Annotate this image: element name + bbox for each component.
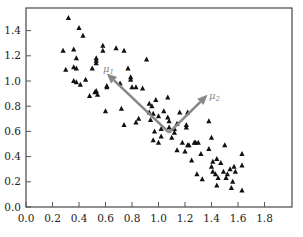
data-point (194, 171, 199, 176)
y-tick-label: 0.2 (4, 175, 21, 187)
data-point (66, 15, 71, 20)
data-point (169, 135, 174, 140)
data-point (121, 122, 126, 127)
data-point (230, 179, 235, 184)
y-tick-label: 1.4 (4, 24, 21, 36)
x-tick-label: 1.8 (256, 212, 273, 224)
data-point (165, 94, 170, 99)
data-point (180, 140, 185, 145)
data-point (189, 157, 194, 162)
data-point (159, 133, 164, 138)
data-point (114, 45, 119, 50)
data-point (231, 164, 236, 169)
data-point (80, 33, 85, 38)
y-tick-label: 1.0 (4, 75, 21, 87)
data-point (61, 48, 66, 53)
data-point (76, 25, 81, 30)
data-point (144, 57, 149, 62)
data-point (174, 147, 179, 152)
x-tick-label: 0.6 (97, 212, 114, 224)
data-point (125, 65, 130, 70)
data-point (152, 128, 157, 133)
y-tick-label: 1.2 (4, 49, 21, 61)
x-tick-label: 0.4 (71, 212, 88, 224)
data-point (87, 93, 92, 98)
data-points (61, 15, 245, 193)
y-tick-label: 0.4 (4, 150, 21, 162)
data-point (100, 43, 105, 48)
data-point (229, 185, 234, 190)
y-tick-label: 0.6 (4, 125, 21, 137)
data-point (129, 84, 134, 89)
x-tick-label: 0.8 (124, 212, 141, 224)
x-tick-label: 0.2 (44, 212, 61, 224)
scatter-chart: 0.00.20.40.60.81.01.21.41.61.8 0.00.20.4… (0, 0, 303, 237)
data-point (239, 188, 244, 193)
data-point (200, 176, 205, 181)
data-point (214, 156, 219, 161)
x-tick-label: 1.2 (177, 212, 194, 224)
data-point (225, 171, 230, 176)
data-point (71, 47, 76, 52)
x-tick-label: 1.0 (150, 212, 167, 224)
data-point (214, 183, 219, 188)
data-point (103, 108, 108, 113)
data-point (90, 65, 95, 70)
x-tick-label: 1.4 (203, 212, 220, 224)
data-point (78, 82, 83, 87)
y-tick-label: 0.0 (4, 201, 21, 213)
data-point (239, 162, 244, 167)
data-point (128, 77, 133, 82)
data-point (206, 118, 211, 123)
data-point (184, 125, 189, 130)
data-point (83, 77, 88, 82)
data-point (136, 116, 141, 121)
x-tick-label: 0.0 (18, 212, 35, 224)
data-point (156, 140, 161, 145)
data-point (233, 169, 238, 174)
data-point (165, 115, 170, 120)
data-point (206, 146, 211, 151)
data-point (63, 67, 68, 72)
data-point (210, 159, 215, 164)
y-axis-ticks: 0.00.20.40.60.81.01.21.4 (4, 24, 31, 212)
plot-frame (26, 8, 292, 207)
data-point (119, 106, 124, 111)
x-axis-ticks: 0.00.20.40.60.81.01.21.41.61.8 (18, 202, 273, 224)
principal-axes-arrows (107, 73, 208, 132)
data-point (140, 86, 145, 91)
data-point (239, 151, 244, 156)
data-point (94, 60, 99, 65)
data-point (100, 48, 105, 53)
mu2-label: μ2 (209, 90, 221, 103)
data-point (121, 48, 126, 53)
data-point (74, 55, 79, 60)
data-point (209, 135, 214, 140)
data-point (156, 113, 161, 118)
data-point (221, 169, 226, 174)
data-point (209, 164, 214, 169)
data-point (222, 142, 227, 147)
data-point (182, 149, 187, 154)
data-point (153, 97, 158, 102)
data-point (167, 125, 172, 130)
data-point (227, 166, 232, 171)
data-point (198, 151, 203, 156)
data-point (161, 108, 166, 113)
y-tick-label: 0.8 (4, 100, 21, 112)
x-tick-label: 1.6 (230, 212, 247, 224)
data-point (177, 110, 182, 115)
data-point (151, 137, 156, 142)
